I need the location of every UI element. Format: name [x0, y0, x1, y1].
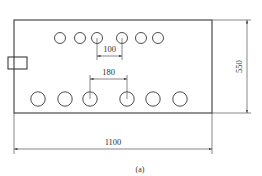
side-tab	[8, 57, 27, 69]
bottom-hole	[173, 92, 187, 106]
bottom-holes-row	[31, 92, 187, 106]
top-holes-row	[55, 33, 164, 44]
top-hole	[55, 33, 66, 44]
bottom-hole	[58, 92, 72, 106]
figure-caption: (a)	[136, 165, 145, 174]
bottom-hole	[146, 92, 160, 106]
top-hole	[153, 33, 164, 44]
top-hole	[75, 33, 86, 44]
top-hole	[136, 33, 147, 44]
height-dimension: 550	[212, 20, 251, 113]
width-dimension: 1100	[14, 113, 212, 154]
bottom-hole	[31, 92, 45, 106]
bottom-spacing-label: 180	[102, 67, 115, 77]
perforated-plate-diagram: 550 1100 (a) 100 180	[0, 0, 262, 176]
width-label: 1100	[105, 137, 122, 147]
top-spacing-label: 100	[103, 44, 116, 54]
height-label: 550	[234, 60, 244, 73]
